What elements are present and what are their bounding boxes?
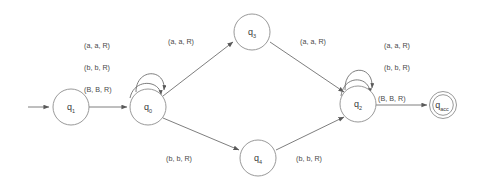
edge-label-q2-self-a: (a, a, R): [384, 41, 410, 50]
edge-label-q0-self-blank: (B, B, R): [84, 85, 112, 94]
state-sub-q4: 4: [259, 159, 262, 165]
state-sub-qacc: acc: [440, 106, 449, 112]
edge-label-q2-self-b: (b, b, R): [384, 63, 410, 72]
edge-label-q3-to-q2: (a, a, R): [300, 37, 326, 46]
state-sub-q0: 0: [149, 108, 152, 114]
edge-label-q0-self-a: (a, a, R): [84, 41, 110, 50]
edge-label-q0-to-q3: (a, a, R): [168, 37, 194, 46]
state-sub-q1: 1: [72, 108, 75, 114]
edge-label-q4-to-q2: (b, b, R): [296, 154, 322, 163]
state-diagram-canvas: q1 q0 q3 q4 q2 qacc (a, a, R) (b, b, R) …: [0, 0, 486, 192]
edge-q0-to-q4: [163, 118, 239, 150]
state-sub-q2: 2: [359, 105, 362, 111]
edge-label-q0-self-b: (b, b, R): [84, 63, 110, 72]
edge-q4-to-q2: [276, 117, 344, 150]
state-diagram-svg: q1 q0 q3 q4 q2 qacc (a, a, R) (b, b, R) …: [0, 0, 486, 192]
edge-q0-to-q3: [163, 42, 233, 96]
edge-q3-to-q2: [270, 42, 344, 92]
edge-label-q0-to-q4: (b, b, R): [166, 154, 192, 163]
edge-label-q2-to-qacc: (B, B, R): [378, 94, 406, 103]
state-sub-q3: 3: [253, 33, 256, 39]
